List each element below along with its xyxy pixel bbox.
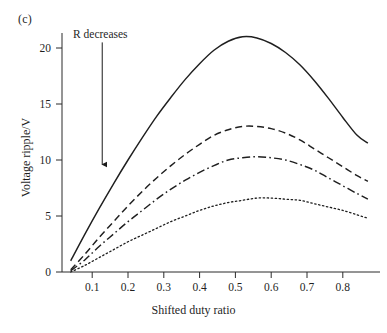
x-tick-label: 0.3 <box>157 281 172 293</box>
curve-1-solid <box>71 37 368 261</box>
x-tick-label: 0.6 <box>264 281 279 293</box>
annotation-label-r-decreases: R decreases <box>73 28 128 40</box>
x-tick-label: 0.1 <box>85 281 100 293</box>
y-tick-label: 0 <box>45 266 51 278</box>
x-axis-ticks: 0.10.20.30.40.50.60.70.8 <box>85 272 350 293</box>
y-axis-label: Voltage ripple/V <box>19 88 34 228</box>
x-tick-label: 0.2 <box>121 281 136 293</box>
y-tick-label: 5 <box>45 210 51 222</box>
axes <box>62 33 380 272</box>
y-tick-label: 10 <box>40 154 52 166</box>
y-tick-label: 15 <box>40 98 52 110</box>
x-tick-label: 0.8 <box>336 281 351 293</box>
chart-plot-area: 05101520 0.10.20.30.40.50.60.70.8 <box>0 0 387 333</box>
x-tick-label: 0.4 <box>192 281 207 293</box>
curve-2-dashed <box>71 126 368 270</box>
x-axis-label: Shifted duty ratio <box>0 303 387 318</box>
x-tick-label: 0.7 <box>300 281 315 293</box>
y-axis-ticks: 05101520 <box>40 42 63 278</box>
panel-label: (c) <box>18 12 32 27</box>
x-tick-label: 0.5 <box>228 281 243 293</box>
curve-3-dashdot <box>71 157 368 271</box>
data-curves <box>71 37 368 272</box>
curve-4-dotted <box>71 198 368 272</box>
figure-panel-c: (c) Voltage ripple/V Shifted duty ratio … <box>0 0 387 333</box>
y-tick-label: 20 <box>40 42 52 54</box>
